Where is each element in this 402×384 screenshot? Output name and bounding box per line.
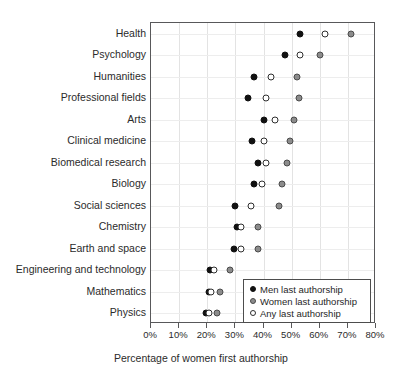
data-point-women (254, 224, 261, 231)
legend-item: Men last authorship (248, 283, 366, 295)
gridline-horizontal (151, 77, 374, 78)
data-point-women (295, 95, 302, 102)
legend-item-label: Women last authorship (260, 296, 357, 307)
gridline-vertical (207, 23, 208, 322)
x-axis: 0%10%20%30%40%50%60%70%80% (150, 323, 375, 329)
data-point-any (205, 310, 212, 317)
data-point-any (271, 116, 278, 123)
data-point-men (230, 245, 237, 252)
x-axis-tick-label: 10% (169, 330, 188, 340)
data-point-women (294, 73, 301, 80)
y-axis-tick-label: Humanities (0, 70, 146, 81)
x-axis-tick-label: 60% (309, 330, 328, 340)
data-point-any (263, 95, 270, 102)
data-point-women (347, 30, 354, 37)
x-axis-tick (319, 323, 320, 328)
gridline-horizontal (151, 249, 374, 250)
data-point-men (245, 95, 252, 102)
data-point-women (287, 138, 294, 145)
x-axis-tick (150, 323, 151, 328)
data-point-any (211, 267, 218, 274)
legend-marker-icon (248, 296, 258, 306)
plot-area (150, 22, 375, 323)
y-axis-tick-label: Physics (0, 307, 146, 318)
data-point-women (275, 202, 282, 209)
data-point-women (254, 245, 261, 252)
data-point-women (216, 288, 223, 295)
gridline-horizontal (151, 270, 374, 271)
data-point-any (259, 181, 266, 188)
x-axis-tick (291, 323, 292, 328)
chart-figure: HealthPsychologyHumanitiesProfessional f… (0, 0, 402, 384)
data-point-women (316, 52, 323, 59)
data-point-any (208, 288, 215, 295)
y-axis-tick-label: Psychology (0, 49, 146, 60)
data-point-any (238, 224, 245, 231)
x-axis-tick-label: 30% (225, 330, 244, 340)
legend-marker-icon (248, 284, 258, 294)
data-point-women (284, 159, 291, 166)
legend-item-label: Any last authorship (260, 308, 341, 319)
data-point-men (254, 159, 261, 166)
data-point-men (250, 181, 257, 188)
x-axis-tick-label: 50% (281, 330, 300, 340)
y-axis-tick-label: Professional fields (0, 92, 146, 103)
y-axis-tick-label: Engineering and technology (0, 264, 146, 275)
data-point-women (226, 267, 233, 274)
gridline-vertical (348, 23, 349, 322)
gridline-horizontal (151, 34, 374, 35)
data-point-women (214, 310, 221, 317)
y-axis-tick-label: Clinical medicine (0, 135, 146, 146)
legend-item: Any last authorship (248, 307, 366, 319)
y-axis-tick-label: Biomedical research (0, 156, 146, 167)
x-axis-tick (178, 323, 179, 328)
x-axis-tick-label: 80% (365, 330, 384, 340)
gridline-horizontal (151, 227, 374, 228)
gridline-vertical (320, 23, 321, 322)
chart-legend: Men last authorshipWomen last authorship… (243, 279, 371, 323)
x-axis-tick-label: 0% (143, 330, 157, 340)
x-axis-tick (206, 323, 207, 328)
data-point-women (291, 116, 298, 123)
data-point-any (247, 202, 254, 209)
x-axis-tick (375, 323, 376, 328)
y-axis-tick-label: Biology (0, 178, 146, 189)
x-axis-title: Percentage of women first authorship (0, 352, 402, 364)
x-axis-tick (347, 323, 348, 328)
y-axis-tick-label: Arts (0, 113, 146, 124)
gridline-horizontal (151, 206, 374, 207)
data-point-women (278, 181, 285, 188)
y-axis-tick-label: Health (0, 27, 146, 38)
data-point-any (238, 245, 245, 252)
data-point-any (297, 52, 304, 59)
data-point-any (263, 159, 270, 166)
y-axis-category-labels: HealthPsychologyHumanitiesProfessional f… (0, 22, 146, 323)
data-point-men (232, 202, 239, 209)
y-axis-tick-label: Chemistry (0, 221, 146, 232)
gridline-vertical (235, 23, 236, 322)
x-axis-tick (234, 323, 235, 328)
data-point-men (250, 73, 257, 80)
data-point-any (322, 30, 329, 37)
data-point-men (297, 30, 304, 37)
data-point-men (281, 52, 288, 59)
legend-item: Women last authorship (248, 295, 366, 307)
legend-marker-icon (248, 308, 258, 318)
gridline-vertical (179, 23, 180, 322)
x-axis-tick-label: 40% (253, 330, 272, 340)
legend-item-label: Men last authorship (260, 284, 343, 295)
data-point-men (249, 138, 256, 145)
y-axis-tick-label: Earth and space (0, 242, 146, 253)
data-point-men (260, 116, 267, 123)
y-axis-tick-label: Social sciences (0, 199, 146, 210)
x-axis-tick-label: 70% (337, 330, 356, 340)
gridline-vertical (264, 23, 265, 322)
gridline-horizontal (151, 55, 374, 56)
y-axis-tick-label: Mathematics (0, 285, 146, 296)
gridline-vertical (292, 23, 293, 322)
data-point-any (260, 138, 267, 145)
x-axis-tick (263, 323, 264, 328)
data-point-any (267, 73, 274, 80)
x-axis-tick-label: 20% (197, 330, 216, 340)
